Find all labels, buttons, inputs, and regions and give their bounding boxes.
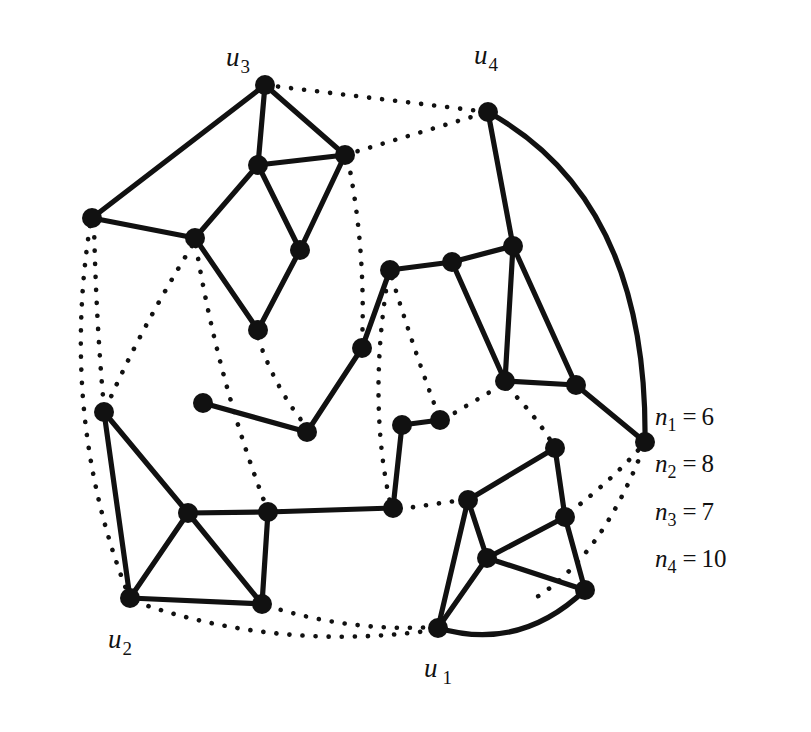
solid-edge-c1-c3 bbox=[307, 348, 362, 432]
solid-edge-e4-e5 bbox=[487, 558, 585, 590]
legend: n1=6 n2=8 n3=7 n4=10 bbox=[655, 404, 805, 593]
legend-equals-n1: = bbox=[677, 403, 702, 430]
legend-equals-n3: = bbox=[677, 498, 702, 525]
dotted-edge-a2-c1 bbox=[348, 160, 363, 344]
legend-subscript-n2: 2 bbox=[668, 463, 677, 483]
solid-edge-b3-c1 bbox=[362, 270, 390, 348]
legend-row-n4: n4=10 bbox=[655, 546, 805, 576]
dotted-edge-a4-d1 bbox=[106, 246, 192, 408]
vertex-label-u4-symbol: u bbox=[474, 40, 488, 70]
node-c5 bbox=[392, 415, 412, 435]
vertex-label-u2-subscript: 2 bbox=[122, 638, 133, 659]
legend-subscript-n3: 3 bbox=[668, 510, 677, 530]
node-c6 bbox=[383, 498, 403, 518]
node-u4 bbox=[478, 102, 498, 122]
node-d2 bbox=[178, 503, 198, 523]
node-b5 bbox=[566, 375, 586, 395]
node-b1 bbox=[503, 236, 523, 256]
solid-edge-e1-e2 bbox=[468, 448, 555, 500]
node-d4 bbox=[120, 588, 140, 608]
solid-edge-c5-c6 bbox=[393, 425, 402, 508]
solid-edge-u3-a2 bbox=[265, 85, 345, 155]
dotted-edge-d5-u1 bbox=[268, 606, 434, 628]
legend-subscript-n4: 4 bbox=[668, 557, 677, 577]
vertex-label-u4-subscript: 4 bbox=[488, 54, 499, 75]
dotted-edge-e3-b6 bbox=[570, 447, 641, 512]
solid-edge-a3-a4 bbox=[92, 218, 195, 238]
node-a1 bbox=[248, 155, 268, 175]
solid-edge-b4-b5 bbox=[505, 381, 576, 385]
solid-edge-e1-e3 bbox=[555, 448, 565, 517]
node-d1 bbox=[94, 402, 114, 422]
solid-edge-u3-a1 bbox=[258, 85, 265, 165]
solid-edge-e3-e5 bbox=[565, 517, 585, 590]
dotted-edge-a6-c3 bbox=[258, 338, 306, 426]
dotted-edge-u3-u4 bbox=[265, 85, 488, 112]
dotted-edge-a2-u4 bbox=[345, 112, 488, 155]
vertex-label-u3: u3 bbox=[226, 44, 250, 76]
legend-symbol-n2: n bbox=[655, 450, 668, 477]
solid-edge-d3-d5 bbox=[262, 512, 268, 604]
solid-edges-group bbox=[92, 85, 645, 635]
node-a2 bbox=[335, 145, 355, 165]
node-b3 bbox=[380, 260, 400, 280]
vertex-label-u2-symbol: u bbox=[108, 624, 122, 654]
solid-edge-a1-a5 bbox=[258, 165, 300, 250]
solid-edge-b5-b6 bbox=[576, 385, 645, 442]
node-c3 bbox=[297, 422, 317, 442]
legend-row-n3: n3=7 bbox=[655, 499, 805, 529]
figure-root: u3 u4 u2 u1 n1=6 n2=8 n3=7 n4=10 bbox=[0, 0, 811, 732]
legend-row-n2: n2=8 bbox=[655, 451, 805, 481]
solid-edge-d2-d5 bbox=[188, 513, 262, 604]
vertex-label-u1-subscript: 1 bbox=[438, 667, 453, 688]
node-a4 bbox=[185, 228, 205, 248]
legend-value-n3: 7 bbox=[702, 498, 715, 525]
dotted-edge-a4-d3 bbox=[196, 246, 266, 506]
dotted-edge-c6-e2 bbox=[400, 500, 462, 509]
legend-subscript-n1: 1 bbox=[668, 415, 677, 435]
legend-equals-n4: = bbox=[677, 545, 702, 572]
vertex-label-u3-subscript: 3 bbox=[240, 56, 251, 77]
node-a5 bbox=[290, 240, 310, 260]
dotted-edge-a3-d1 bbox=[94, 224, 104, 408]
legend-value-n2: 8 bbox=[702, 450, 715, 477]
node-u3 bbox=[255, 75, 275, 95]
node-u1 bbox=[428, 618, 448, 638]
dotted-edge-b3-c4 bbox=[392, 278, 438, 414]
vertex-label-u1-symbol: u bbox=[424, 653, 438, 683]
vertex-label-u4: u4 bbox=[474, 42, 498, 74]
dotted-edge-b4-e1 bbox=[508, 388, 552, 443]
legend-symbol-n1: n bbox=[655, 403, 668, 430]
node-e5 bbox=[575, 580, 595, 600]
solid-edge-c6-d3 bbox=[268, 508, 393, 512]
node-e3 bbox=[555, 507, 575, 527]
legend-value-n4: 10 bbox=[702, 545, 727, 572]
node-b2 bbox=[442, 252, 462, 272]
node-a3 bbox=[82, 208, 102, 228]
legend-value-n1: 6 bbox=[702, 403, 715, 430]
solid-edge-a5-a6 bbox=[258, 250, 300, 330]
dotted-edge-d4-u1 bbox=[136, 602, 434, 637]
solid-edge-u4-b1 bbox=[488, 112, 513, 246]
dotted-edge-b3-c6 bbox=[378, 278, 390, 502]
solid-edge-d4-d5 bbox=[130, 598, 262, 604]
solid-edge-e3-e4 bbox=[487, 517, 565, 558]
solid-edge-a2-a5 bbox=[300, 155, 345, 250]
solid-edge-b2-b4 bbox=[452, 262, 505, 381]
vertex-label-u2: u2 bbox=[108, 626, 132, 658]
dotted-edge-b4-c4 bbox=[446, 386, 500, 418]
node-a6 bbox=[248, 320, 268, 340]
solid-edge-d2-d3 bbox=[188, 512, 268, 513]
node-b4 bbox=[495, 371, 515, 391]
node-d3 bbox=[258, 502, 278, 522]
solid-edge-b1-b4 bbox=[505, 246, 513, 381]
graph-diagram bbox=[0, 0, 811, 732]
node-d5 bbox=[252, 594, 272, 614]
legend-equals-n2: = bbox=[677, 450, 702, 477]
solid-edge-b1-b5 bbox=[513, 246, 576, 385]
solid-edge-a1-a4 bbox=[195, 165, 258, 238]
legend-row-n1: n1=6 bbox=[655, 404, 805, 434]
legend-symbol-n4: n bbox=[655, 545, 668, 572]
node-c1 bbox=[352, 338, 372, 358]
legend-symbol-n3: n bbox=[655, 498, 668, 525]
